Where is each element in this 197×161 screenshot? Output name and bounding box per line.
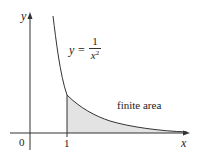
function-lhs: y: [69, 44, 74, 56]
origin-label: 0: [19, 137, 25, 148]
function-fraction: 1 x2: [89, 36, 101, 61]
x-axis-arrow-icon: [183, 131, 190, 136]
y-axis-label: y: [21, 10, 26, 22]
tick-label-1: 1: [64, 138, 70, 149]
finite-area-label: finite area: [117, 100, 161, 111]
x-axis-label: x: [181, 137, 186, 149]
fraction-denominator: x2: [91, 50, 99, 61]
function-equals: =: [78, 44, 85, 56]
y-axis-arrow-icon: [28, 12, 33, 19]
fraction-numerator: 1: [92, 36, 98, 47]
denominator-exponent: 2: [96, 49, 100, 57]
graph-canvas: [0, 0, 197, 161]
